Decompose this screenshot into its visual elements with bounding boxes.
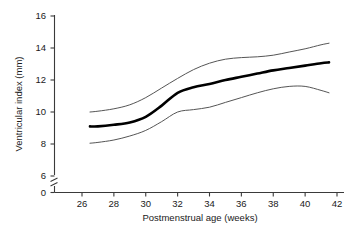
x-tick-label: 42 <box>332 198 343 209</box>
x-tick-label: 32 <box>172 198 183 209</box>
upper-centile-curve <box>90 43 329 112</box>
x-tick-label: 38 <box>268 198 279 209</box>
x-axis-ticks: 262830323436384042 <box>77 193 343 209</box>
y-tick-label: 6 <box>41 170 46 181</box>
y-tick-label: 10 <box>35 106 46 117</box>
x-tick-label: 28 <box>109 198 120 209</box>
data-curves <box>90 43 329 143</box>
chart-plot-area: 06810121416 262830323436384042 Postmenst… <box>0 0 356 242</box>
x-tick-label: 40 <box>300 198 311 209</box>
y-tick-label: 12 <box>35 74 46 85</box>
y-axis-title: Ventricular index (mm) <box>13 56 24 151</box>
lower-centile-curve <box>90 86 329 143</box>
y-axis-ticks: 06810121416 <box>35 10 54 198</box>
y-tick-label: 0 <box>41 187 46 198</box>
x-tick-label: 26 <box>77 198 88 209</box>
x-tick-label: 30 <box>140 198 151 209</box>
median-curve <box>90 62 329 126</box>
axis-lines <box>51 15 345 193</box>
y-tick-label: 16 <box>35 10 46 21</box>
axis-break-icon <box>51 178 58 186</box>
x-tick-label: 34 <box>204 198 215 209</box>
y-tick-label: 14 <box>35 42 46 53</box>
x-axis-title: Postmenstrual age (weeks) <box>142 212 257 223</box>
ventricular-index-chart: 06810121416 262830323436384042 Postmenst… <box>0 0 356 242</box>
y-tick-label: 8 <box>41 138 46 149</box>
x-tick-label: 36 <box>236 198 247 209</box>
